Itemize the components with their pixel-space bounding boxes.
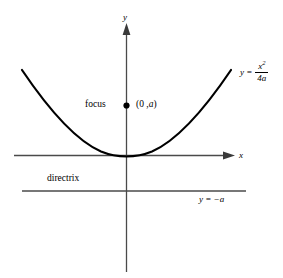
curve-equation-lhs: y = <box>240 68 252 77</box>
curve-equation-numerator-exponent: 2 <box>262 59 265 66</box>
directrix-equation-label: y = −a <box>199 195 224 204</box>
curve-equation-fraction: x2 4a <box>255 62 268 83</box>
x-axis-arrowhead <box>223 152 235 160</box>
focus-coord-suffix: ) <box>153 99 156 109</box>
directrix-eq-value: a <box>220 194 225 204</box>
focus-point-dot <box>123 102 129 108</box>
y-axis-label: y <box>123 13 127 22</box>
figure-canvas <box>0 0 283 278</box>
parabola-figure: y x focus (0 ,a) directrix y = −a y = x2… <box>0 0 283 278</box>
directrix-eq-prefix: y = − <box>199 194 220 204</box>
curve-equation-numerator: x2 <box>256 62 267 72</box>
x-axis-label: x <box>239 151 243 160</box>
focus-coordinates-label: (0 ,a) <box>136 100 157 110</box>
focus-label: focus <box>85 100 106 110</box>
curve-equation-denominator: 4a <box>255 72 268 83</box>
curve-equation-label: y = x2 4a <box>240 62 268 83</box>
y-axis-arrowhead <box>123 23 131 35</box>
directrix-label: directrix <box>47 174 79 184</box>
focus-coord-prefix: (0 , <box>136 99 149 109</box>
